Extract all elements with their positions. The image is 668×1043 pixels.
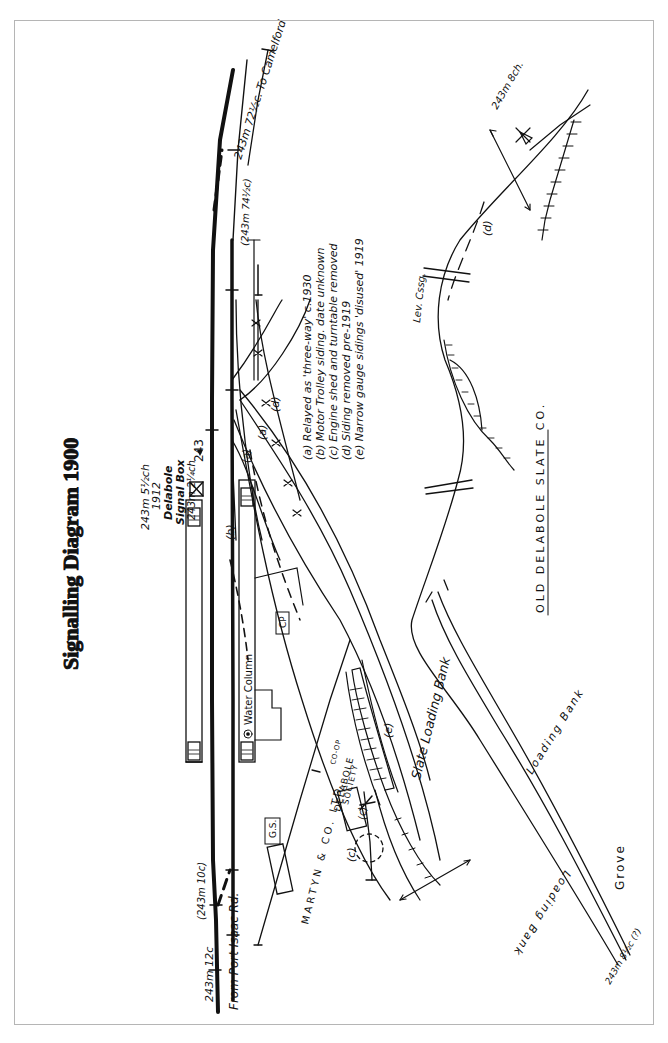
signalling-diagram-page: Signalling Diagram 1900 — [0, 0, 668, 1043]
page-frame — [14, 20, 654, 1025]
